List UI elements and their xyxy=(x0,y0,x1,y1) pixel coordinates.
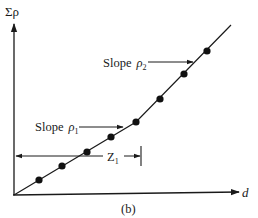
cumulative-density-diagram: Σρ d Slope ρ2 Slope ρ1 Z1 (b) xyxy=(0,0,258,218)
slope1-annotation: Slope ρ1 xyxy=(35,120,123,136)
data-point xyxy=(107,133,114,140)
svg-text:Z1: Z1 xyxy=(107,150,119,166)
subscript: 1 xyxy=(75,127,79,136)
data-point xyxy=(83,148,90,155)
data-line xyxy=(14,25,231,195)
slope1-label: Slope xyxy=(35,120,67,134)
data-point xyxy=(180,70,187,77)
subscript: 1 xyxy=(115,157,119,166)
z1-dimension: Z1 xyxy=(16,146,141,166)
svg-text:Slope ρ1: Slope ρ1 xyxy=(35,120,79,136)
svg-text:Slope ρ2: Slope ρ2 xyxy=(103,56,147,72)
slope2-annotation: Slope ρ2 xyxy=(103,56,193,72)
x-axis-label: d xyxy=(242,185,249,200)
data-point xyxy=(156,95,163,102)
slope2-label: Slope xyxy=(103,56,135,70)
data-point xyxy=(58,162,65,169)
y-axis-label: Σρ xyxy=(5,4,19,19)
rho-symbol: ρ xyxy=(68,120,75,134)
rho-symbol: ρ xyxy=(136,56,143,70)
z1-label: Z xyxy=(107,150,115,164)
x-axis xyxy=(13,192,239,195)
panel-label: (b) xyxy=(121,202,136,216)
data-point xyxy=(132,118,139,125)
data-point xyxy=(203,47,210,54)
subscript: 2 xyxy=(143,63,147,72)
data-point xyxy=(35,176,42,183)
